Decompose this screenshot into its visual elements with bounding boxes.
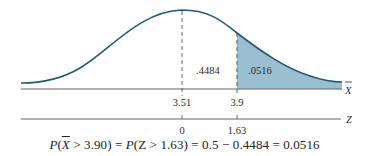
eq-xbar: X: [62, 137, 70, 152]
xbar-tick-mean-label: 3.51: [173, 97, 191, 108]
eq-part1: > 3.90) =: [70, 137, 126, 152]
z-tick-cutoff-label: 1.63: [228, 125, 246, 136]
area-middle-label: .4484: [196, 65, 220, 76]
eq-p2: P: [126, 137, 134, 152]
area-tail-label: .0516: [248, 65, 272, 76]
z-tick-mean-label: 0: [179, 125, 184, 136]
eq-p1: P: [49, 137, 57, 152]
z-axis-label: Z: [346, 114, 352, 125]
xbar-axis-label: X: [344, 85, 352, 96]
xbar-tick-cutoff-label: 3.9: [230, 97, 243, 108]
eq-part2: (Z > 1.63) = 0.5 − 0.4484 = 0.0516: [134, 137, 320, 152]
probability-equation: P(X > 3.90) = P(Z > 1.63) = 0.5 − 0.4484…: [0, 137, 369, 153]
normal-distribution-chart: .4484 .0516 3.51 3.9 0 1.63 X Z: [0, 0, 369, 156]
